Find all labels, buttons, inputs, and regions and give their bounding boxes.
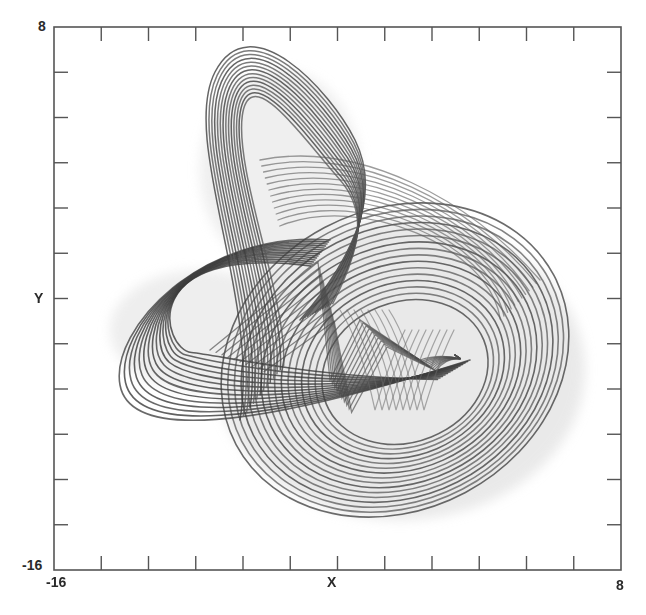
y-min-label: -16 — [22, 557, 42, 573]
y-max-label: 8 — [38, 18, 46, 34]
x-max-label: 8 — [616, 577, 624, 593]
x-min-label: -16 — [46, 574, 66, 590]
y-axis-title: Y — [34, 290, 43, 306]
attractor-plot — [0, 0, 646, 615]
x-axis-title: X — [327, 574, 336, 590]
